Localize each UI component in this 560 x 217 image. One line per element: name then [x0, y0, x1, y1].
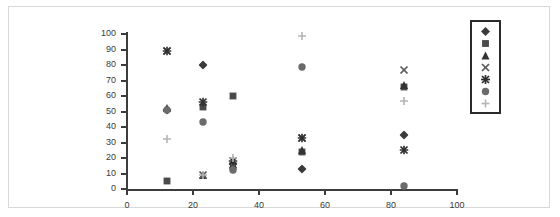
y-axis-label: 60	[86, 91, 116, 100]
y-axis-label: 90	[86, 45, 116, 54]
x-axis-tick	[192, 189, 194, 195]
legend-item-square[interactable]	[476, 38, 496, 49]
y-axis-label: 50	[86, 107, 116, 116]
legend-item-star[interactable]	[476, 74, 496, 85]
x-axis-label: 60	[310, 201, 340, 210]
legend-item-plus[interactable]	[476, 98, 496, 109]
data-point-plus-icon	[400, 96, 409, 105]
legend-item-x-cross[interactable]	[476, 62, 496, 73]
y-axis-label: 70	[86, 76, 116, 85]
x-axis-label: 40	[244, 201, 274, 210]
data-point-plus-icon	[297, 31, 306, 40]
x-axis-label: 0	[112, 201, 142, 210]
y-axis-tick	[121, 95, 127, 97]
data-point-triangle-icon	[297, 146, 306, 155]
x-axis-tick	[324, 189, 326, 195]
legend-item-circle[interactable]	[476, 86, 496, 97]
star-icon	[481, 75, 490, 84]
diamond-icon	[481, 27, 490, 36]
y-axis-tick	[121, 142, 127, 144]
data-point-star-icon	[297, 133, 306, 142]
y-axis-label: 40	[86, 122, 116, 131]
plus-icon	[481, 99, 490, 108]
data-point-diamond-icon	[400, 130, 409, 139]
y-axis-tick	[121, 173, 127, 175]
data-point-plus-icon	[162, 135, 171, 144]
x-cross-icon	[481, 63, 490, 72]
y-axis-label: 10	[86, 169, 116, 178]
x-axis-tick	[456, 189, 458, 195]
y-axis-tick	[121, 64, 127, 66]
x-axis-tick	[126, 189, 128, 195]
data-point-circle-icon	[228, 166, 237, 175]
data-point-diamond-icon	[198, 61, 207, 70]
data-point-circle-icon	[198, 118, 207, 127]
y-axis-label: 30	[86, 138, 116, 147]
x-axis-label: 100	[442, 201, 472, 210]
data-point-square-icon	[162, 177, 171, 186]
data-point-plus-icon	[198, 171, 207, 180]
y-axis-label: 0	[86, 184, 116, 193]
data-point-diamond-icon	[297, 164, 306, 173]
y-axis-tick	[121, 33, 127, 35]
data-point-square-icon	[228, 92, 237, 101]
legend-item-diamond[interactable]	[476, 26, 496, 37]
chart-frame: 0102030405060708090100020406080100	[8, 6, 550, 208]
y-axis-label: 80	[86, 60, 116, 69]
data-point-circle-icon	[297, 62, 306, 71]
y-axis-tick	[121, 111, 127, 113]
data-point-star-icon	[162, 47, 171, 56]
square-icon	[481, 39, 490, 48]
y-axis-label: 100	[86, 29, 116, 38]
y-axis-tick	[121, 80, 127, 82]
x-axis-label: 80	[376, 201, 406, 210]
data-point-plus-icon	[228, 154, 237, 163]
plot-area: 0102030405060708090100020406080100	[127, 34, 457, 189]
data-point-star-icon	[400, 146, 409, 155]
data-point-circle-icon	[162, 105, 171, 114]
data-point-star-icon	[198, 98, 207, 107]
legend-item-triangle[interactable]	[476, 50, 496, 61]
y-axis-tick	[121, 126, 127, 128]
data-point-circle-icon	[400, 181, 409, 190]
x-axis-tick	[390, 189, 392, 195]
x-axis-tick	[258, 189, 260, 195]
y-axis-label: 20	[86, 153, 116, 162]
x-axis-label: 20	[178, 201, 208, 210]
chart-legend[interactable]	[470, 20, 501, 114]
triangle-icon	[481, 51, 490, 60]
screenshot-root: 0102030405060708090100020406080100	[0, 0, 560, 217]
circle-icon	[481, 87, 490, 96]
data-point-x-cross-icon	[400, 65, 409, 74]
data-point-triangle-icon	[400, 81, 409, 90]
y-axis-tick	[121, 157, 127, 159]
y-axis-tick	[121, 49, 127, 51]
